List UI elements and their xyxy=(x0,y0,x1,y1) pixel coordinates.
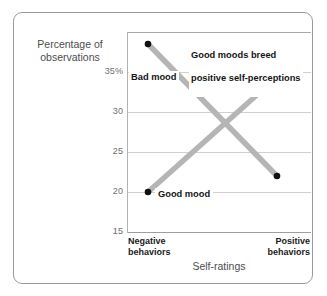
x-axis-title: Self-ratings xyxy=(127,260,311,272)
xtick-label-positive-behaviors: Positive behaviors xyxy=(246,236,310,258)
xtick-negative-line2: behaviors xyxy=(128,247,171,258)
chart-callout-line2: positive self-perceptions xyxy=(191,73,301,85)
chart-callout-annotation: Good moods breed positive self-perceptio… xyxy=(189,37,303,97)
xtick-positive-line1: Positive xyxy=(246,236,310,247)
data-point-bad-mood-positive xyxy=(274,173,281,180)
series-label-good-mood: Good mood xyxy=(155,188,213,202)
xtick-label-negative-behaviors: Negative behaviors xyxy=(128,236,171,258)
data-point-good-mood-negative xyxy=(145,189,152,196)
xtick-positive-line2: behaviors xyxy=(246,247,310,258)
figure-root: 35% 30 25 20 15 Percentage of observatio… xyxy=(0,0,327,296)
xtick-negative-line1: Negative xyxy=(128,236,171,247)
series-label-bad-mood: Bad mood xyxy=(129,71,179,85)
data-point-bad-mood-negative xyxy=(145,41,152,48)
chart-callout-line1: Good moods breed xyxy=(191,50,301,62)
